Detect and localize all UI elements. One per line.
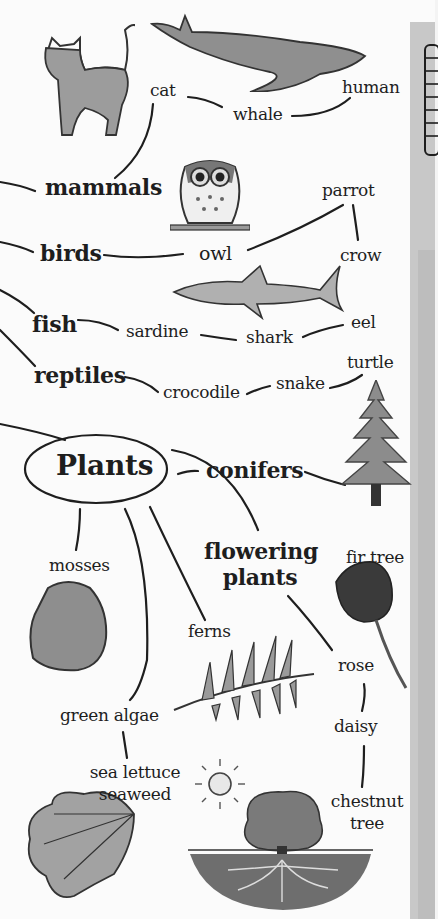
node-ferns: ferns	[188, 623, 231, 640]
cat-icon	[40, 20, 135, 140]
node-human: human	[342, 79, 400, 96]
fern-icon	[172, 632, 317, 722]
node-eel: eel	[351, 314, 376, 331]
fir-tree-icon	[340, 380, 412, 510]
node-sardine: sardine	[126, 323, 188, 340]
node-conifers: conifers	[206, 459, 303, 481]
moss-icon	[28, 578, 112, 672]
node-daisy: daisy	[334, 718, 377, 735]
node-plants: Plants	[56, 452, 153, 480]
node-owl: owl	[199, 244, 232, 263]
node-chestnut-tree: tree	[324, 815, 410, 832]
node-snake: snake	[276, 375, 325, 392]
node-chestnut: chestnut	[324, 793, 410, 810]
node-shark: shark	[246, 329, 293, 346]
node-crocodile: crocodile	[163, 384, 240, 401]
node-rose: rose	[338, 657, 374, 674]
node-crow: crow	[340, 247, 381, 264]
node-mammals: mammals	[45, 176, 162, 198]
owl-icon	[170, 155, 250, 235]
node-seaweed: seaweed	[85, 786, 185, 803]
node-birds: birds	[40, 242, 102, 264]
node-green-algae: green algae	[60, 707, 159, 724]
shark-icon	[172, 264, 347, 322]
node-flowering-plants-line2: plants	[204, 566, 316, 588]
node-fir-tree: fir tree	[346, 549, 404, 566]
node-fish: fish	[32, 313, 77, 335]
node-sea-lettuce: sea lettuce	[85, 764, 185, 781]
node-turtle: turtle	[347, 354, 393, 371]
node-whale: whale	[233, 106, 283, 123]
node-mosses: mosses	[49, 557, 110, 574]
whale-icon	[150, 12, 370, 92]
node-reptiles: reptiles	[34, 364, 126, 386]
node-flowering-plants-line1: flowering	[204, 540, 316, 562]
node-cat: cat	[150, 82, 176, 99]
node-parrot: parrot	[322, 182, 375, 199]
